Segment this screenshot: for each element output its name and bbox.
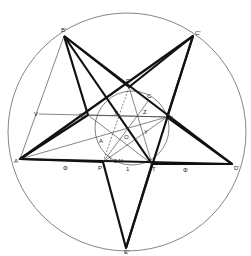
label-D-prime: D' xyxy=(234,165,239,171)
angle-label: 54° xyxy=(114,158,124,164)
label-T: T xyxy=(152,166,156,172)
outer-circle xyxy=(8,13,246,251)
label-Z: Z xyxy=(143,109,147,115)
label-Y: Y xyxy=(144,129,148,135)
phi-left-label: Φ xyxy=(63,165,68,171)
label-S: S xyxy=(169,115,173,121)
label-R: R xyxy=(126,78,131,84)
pentagram-diagram: B' C' A' D' E' R S T P Q C Z X Y O A V 5… xyxy=(0,0,251,256)
label-C-prime: C' xyxy=(195,30,200,36)
label-B-prime: B' xyxy=(61,27,66,33)
label-C: C xyxy=(147,93,152,99)
pentagram-star xyxy=(20,36,232,248)
label-V: V xyxy=(34,111,38,117)
label-Q: Q xyxy=(79,112,84,118)
label-P: P xyxy=(98,165,102,171)
label-A-prime: A' xyxy=(14,158,19,164)
unit-label: 1 xyxy=(126,166,130,172)
label-X: X xyxy=(114,110,118,116)
phi-right-label: Φ xyxy=(183,167,188,173)
label-A: A xyxy=(99,138,103,144)
label-O: O xyxy=(124,134,129,140)
label-E-prime: E' xyxy=(124,249,129,255)
